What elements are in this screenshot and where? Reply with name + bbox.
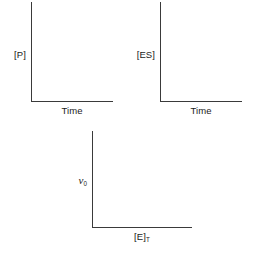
x-axis-label: Time	[160, 106, 242, 116]
y-axis-label: [ES]	[137, 50, 155, 60]
x-axis-line	[31, 101, 113, 102]
x-axis-line	[92, 227, 192, 228]
x-axis-line	[160, 101, 242, 102]
plot-panel-es-complex: [ES] Time	[160, 2, 242, 101]
x-axis-label-subscript: T	[146, 236, 150, 243]
y-axis-label: [P]	[14, 50, 26, 60]
y-axis-label-subscript: 0	[83, 180, 87, 187]
plot-area	[32, 2, 113, 100]
plot-area	[93, 131, 192, 226]
x-axis-label: [E]T	[92, 232, 192, 242]
plot-panel-product: [P] Time	[31, 2, 113, 101]
x-axis-label-symbol: [E]	[134, 231, 146, 242]
plot-area	[161, 2, 242, 100]
plot-panel-initial-velocity: v0 [E]T	[92, 131, 192, 227]
y-axis-label: v0	[78, 175, 87, 186]
kinetics-figure: [P] Time [ES] Time v0 [E]T	[0, 0, 257, 261]
x-axis-label: Time	[31, 106, 113, 116]
